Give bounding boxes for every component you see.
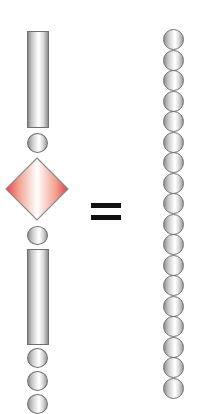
bead — [163, 193, 184, 214]
bead — [163, 91, 184, 112]
bead — [163, 296, 184, 317]
bead — [163, 337, 184, 358]
bead — [163, 70, 184, 91]
bead — [163, 378, 184, 399]
bead — [163, 357, 184, 378]
equals-bar — [91, 203, 121, 208]
bead — [27, 226, 48, 245]
bead — [163, 173, 184, 194]
diamond-element — [5, 157, 69, 221]
bead — [163, 29, 184, 50]
bead — [27, 133, 48, 153]
bead — [163, 316, 184, 337]
bead — [27, 394, 48, 414]
bead — [163, 132, 184, 153]
bead — [163, 111, 184, 132]
bead — [163, 255, 184, 276]
bead — [163, 50, 184, 71]
bead — [163, 152, 184, 173]
cylinder-segment — [27, 249, 49, 345]
bead — [163, 214, 184, 235]
bead — [27, 348, 48, 368]
equals-bar — [91, 215, 121, 220]
cylinder-segment — [27, 31, 49, 128]
bead — [163, 275, 184, 296]
bead — [163, 234, 184, 255]
bead — [27, 371, 48, 391]
